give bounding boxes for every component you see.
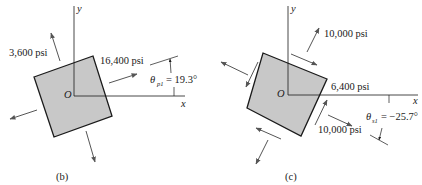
origin-label-b: O xyxy=(64,89,72,100)
stress-element-c xyxy=(247,53,327,136)
angle-arrow-c xyxy=(379,128,382,140)
angle-value-b: = 19.3° xyxy=(166,74,197,85)
arrow-sigma2-up xyxy=(51,33,60,61)
x-axis-label-b: x xyxy=(180,98,186,109)
arrow-normal-upright xyxy=(307,28,319,52)
stress-label-16400: 16,400 psi xyxy=(100,55,144,66)
figure-b: y x O 3,600 psi 16,400 psi θ p1 = 19.3° … xyxy=(9,3,197,183)
caption-c: (c) xyxy=(285,171,297,183)
stress-label-10000-bottom: 10,000 psi xyxy=(318,124,362,135)
arrow-normal-upleft xyxy=(221,62,248,75)
arrow-normal-downleft xyxy=(256,140,268,164)
arrow-sigma1-right xyxy=(109,74,137,83)
arrow-sigma2-down xyxy=(86,131,95,162)
angle-subscript-b: p1 xyxy=(156,80,164,87)
stress-label-3600: 3,600 psi xyxy=(9,47,48,58)
angle-subscript-c: s1 xyxy=(372,117,378,124)
angle-value-c: = −25.7° xyxy=(381,111,418,122)
angle-symbol-c: θ xyxy=(366,111,371,122)
stress-element-diagram: y x O 3,600 psi 16,400 psi θ p1 = 19.3° … xyxy=(0,0,422,185)
figure-c: y x O 10,000 psi 6,400 psi 10,000 psi θ … xyxy=(221,3,418,183)
y-axis-label-c: y xyxy=(290,3,296,14)
shear-arrow-top xyxy=(291,54,317,65)
shear-arrow-right xyxy=(315,100,327,125)
caption-b: (b) xyxy=(56,171,69,183)
origin-label-c: O xyxy=(277,88,285,99)
angle-ref-line-b xyxy=(150,56,178,65)
x-axis-label-c: x xyxy=(412,95,418,106)
y-axis-label-b: y xyxy=(76,3,82,14)
arrow-sigma1-left xyxy=(10,110,37,119)
angle-arrow-b xyxy=(170,59,171,73)
stress-label-10000-top: 10,000 psi xyxy=(324,28,368,39)
stress-element-b xyxy=(34,56,112,137)
angle-symbol-b: θ xyxy=(150,74,155,85)
stress-label-6400: 6,400 psi xyxy=(331,81,370,92)
shear-arrow-bottom xyxy=(256,128,281,139)
